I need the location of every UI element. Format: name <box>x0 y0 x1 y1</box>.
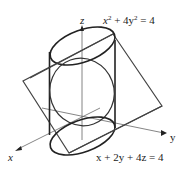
x-axis-label: x <box>7 151 13 163</box>
plane-front-edge <box>30 34 113 78</box>
y-axis-label: y <box>170 131 176 143</box>
plane-x-2y-4z-4 <box>23 34 162 153</box>
cylinder-equation-label: x2 + 4y2 = 4 <box>102 14 155 26</box>
z-axis-label: z <box>79 14 85 26</box>
x-axis-arrow-icon <box>15 146 22 151</box>
cylinder-plane-diagram: z y x x2 + 4y2 = 4 x + 2y + 4z = 4 <box>0 0 183 175</box>
y-axis-arrow-icon <box>161 130 167 136</box>
plane-equation-label: x + 2y + 4z = 4 <box>96 151 164 163</box>
